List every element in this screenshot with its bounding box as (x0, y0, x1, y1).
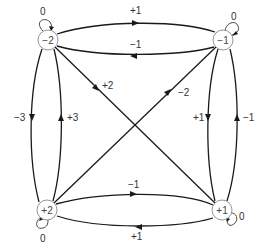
arrow-icon (135, 224, 142, 230)
edge-label-nm1-to-nm2: −1 (130, 39, 142, 50)
arrow-icon (130, 191, 137, 197)
arrow-icon (58, 114, 64, 121)
edge-np2-to-np1 (56, 194, 213, 205)
edge-label-np1-to-nm1: −1 (243, 112, 255, 123)
arrow-icon (92, 84, 99, 91)
edge-label-np2-to-np1: −1 (128, 179, 140, 190)
arrow-icon (164, 89, 171, 96)
node-label: +2 (41, 205, 53, 216)
edge-np1-to-nm1 (227, 49, 237, 201)
self-loop-label-nm1: 0 (231, 11, 237, 22)
edge-label-nm1-to-np1: +1 (193, 112, 205, 123)
edge-label-np2-to-nm2: +3 (67, 112, 79, 123)
arrow-icon (205, 114, 211, 121)
edge-label-np1-to-np2: +1 (131, 231, 143, 242)
node-plus-2: +2 (37, 200, 57, 220)
edge-label-nm2-to-np1: +2 (102, 80, 114, 91)
arrow-icon (29, 114, 35, 121)
node-minus-1: −1 (213, 30, 233, 50)
node-plus-1: +1 (212, 200, 232, 220)
self-loop-label-np1: 0 (239, 211, 245, 222)
arrow-icon (234, 114, 240, 121)
edge-label-nm2-to-nm1: +1 (130, 5, 142, 16)
edge-nm2-to-nm1 (57, 23, 215, 34)
self-loop-label-np2: 0 (40, 233, 46, 244)
node-label: −1 (217, 35, 229, 46)
arrow-icon (132, 20, 139, 26)
state-transition-diagram: +1 −1 −1 +1 −3 +3 +1 −1 +2 −2 0 0 0 0 −2 (0, 0, 269, 249)
self-loop-label-nm2: 0 (40, 6, 46, 17)
edge-np1-to-np2 (57, 216, 213, 226)
node-label: −2 (42, 35, 54, 46)
edge-nm2-to-np2 (31, 49, 42, 202)
edge-label-nm2-to-np2: −3 (14, 112, 26, 123)
self-loop-nm2 (39, 20, 51, 31)
edge-nm1-to-np1 (208, 49, 218, 201)
edge-np2-to-nm2 (53, 49, 61, 201)
edge-label-np2-to-nm1: −2 (178, 87, 190, 98)
node-minus-2: −2 (38, 30, 58, 50)
node-label: +1 (216, 205, 228, 216)
